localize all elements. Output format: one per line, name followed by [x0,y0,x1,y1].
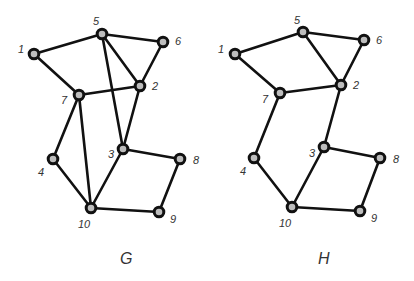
edge-1-5 [235,32,303,54]
graph-g: 15627348109G [18,15,200,267]
edge-5-2 [303,32,341,85]
edge-1-7 [34,54,79,95]
node-label: 5 [93,15,100,27]
edge-3-8 [123,149,180,159]
node-label: 7 [61,94,68,106]
node-label: 3 [309,147,316,159]
node-5 [97,29,107,39]
graph-name-label: H [318,250,330,267]
edge-10-9 [292,207,360,211]
node-label: 1 [18,43,24,55]
node-label: 10 [279,217,292,229]
edge-3-10 [91,149,123,208]
edge-8-9 [159,159,180,212]
edge-2-3 [123,86,140,149]
node-8 [375,153,385,163]
node-10 [86,203,96,213]
edge-1-7 [235,54,280,93]
node-label: 4 [38,166,44,178]
node-4 [249,153,259,163]
node-label: 7 [262,93,269,105]
node-1 [29,49,39,59]
node-4 [48,154,58,164]
node-7 [275,88,285,98]
node-label: 2 [352,79,359,91]
node-label: 10 [78,218,91,230]
node-3 [319,142,329,152]
node-6 [359,35,369,45]
node-7 [74,90,84,100]
graph-h: 15627348109H [218,14,400,267]
node-label: 8 [393,153,400,165]
node-5 [298,27,308,37]
node-label: 9 [170,213,176,225]
edge-3-10 [292,147,324,207]
node-3 [118,144,128,154]
node-6 [158,37,168,47]
edge-4-10 [254,158,292,207]
edge-7-2 [280,85,341,93]
edge-5-6 [303,32,364,40]
edge-1-5 [34,34,102,54]
node-label: 8 [193,154,200,166]
edge-2-3 [324,85,341,147]
edge-10-9 [91,208,159,212]
node-label: 1 [218,43,224,55]
node-9 [355,206,365,216]
node-2 [336,80,346,90]
edge-3-8 [324,147,380,158]
node-10 [287,202,297,212]
edge-7-10 [79,95,91,208]
graph-name-label: G [120,250,132,267]
node-2 [135,81,145,91]
node-label: 4 [240,165,246,177]
node-label: 5 [294,14,301,26]
node-label: 6 [376,34,383,46]
edge-8-9 [360,158,380,211]
node-label: 2 [151,80,158,92]
edge-5-6 [102,34,163,42]
node-1 [230,49,240,59]
node-label: 9 [371,212,377,224]
node-9 [154,207,164,217]
node-label: 3 [108,148,115,160]
graph-canvas: 15627348109G 15627348109H [0,0,414,281]
node-label: 6 [175,35,182,47]
node-8 [175,154,185,164]
edge-7-2 [79,86,140,95]
